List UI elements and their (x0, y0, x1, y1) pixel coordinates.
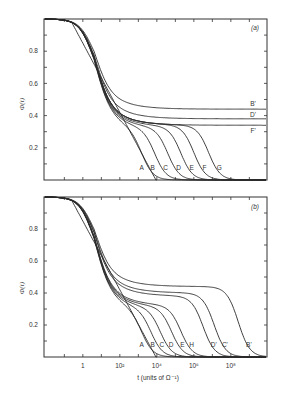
panel-a-curves (45, 19, 266, 180)
panel-b-ticks: 0.20.40.60.8110²10⁴10⁶10⁸ (29, 197, 267, 369)
curve-label: D (176, 164, 181, 171)
curve-label: A (139, 341, 144, 348)
curve-label: B (151, 164, 155, 171)
x-tick-label: 10⁸ (226, 362, 236, 369)
curve-label: C' (222, 341, 228, 348)
curve-label: B' (246, 341, 252, 348)
curve-label: B (151, 341, 155, 348)
curve-H (45, 197, 266, 357)
panel-a-tag: (a) (251, 24, 259, 32)
curve-label: A (139, 164, 144, 171)
curve-E (45, 197, 266, 357)
panel-b-tag: (b) (251, 203, 259, 211)
x-tick-label: 10² (115, 362, 125, 369)
figure: 0.20.40.60.8 ABCDEFGF'D'B' (a) Φ(t) 0.20… (0, 0, 282, 394)
y-tick-label: 0.2 (29, 144, 38, 151)
curve-C (45, 197, 266, 357)
curve-label: E (180, 341, 185, 348)
panel-a: 0.20.40.60.8 ABCDEFGF'D'B' (a) Φ(t) (18, 19, 267, 180)
curve-label: G (217, 164, 222, 171)
curve-B (45, 197, 266, 357)
curve-C (45, 19, 266, 180)
y-tick-label: 0.4 (29, 112, 38, 119)
y-tick-label: 0.8 (29, 225, 38, 232)
curve-label: H (189, 341, 194, 348)
curve-D (45, 197, 266, 357)
curve-label: E (189, 164, 194, 171)
curve-label: C (160, 341, 165, 348)
curve-label: D (169, 341, 174, 348)
panel-a-ticks: 0.20.40.60.8 (29, 19, 267, 180)
y-tick-label: 0.8 (29, 47, 38, 54)
x-tick-label: 10⁶ (189, 362, 199, 369)
curve-label: C (163, 164, 168, 171)
curve-label: D' (211, 341, 217, 348)
y-tick-label: 0.6 (29, 80, 38, 87)
panel-b-frame (44, 197, 267, 357)
curve-label: B' (250, 100, 256, 107)
curve-Cp (45, 197, 266, 357)
curve-label: F (203, 164, 207, 171)
curve-Dp (45, 197, 266, 357)
curve-Bp (45, 197, 266, 356)
panel-b-y-label: Φ(t) (18, 281, 26, 294)
panel-b-curves (45, 197, 266, 357)
x-tick-label: 1 (81, 362, 85, 369)
y-tick-label: 0.6 (29, 257, 38, 264)
x-tick-label: 10⁴ (152, 362, 162, 369)
y-tick-label: 0.4 (29, 289, 38, 296)
panel-b: 0.20.40.60.8110²10⁴10⁶10⁸ ABCDEHD'C'B' (… (18, 197, 267, 382)
curve-label: D' (250, 111, 256, 118)
curve-A (45, 197, 157, 357)
panel-a-y-label: Φ(t) (18, 97, 26, 110)
curve-A (45, 19, 157, 180)
y-tick-label: 0.2 (29, 321, 38, 328)
x-axis-label: t (units of Ω⁻¹) (137, 374, 179, 382)
curve-Bp (45, 19, 266, 109)
curve-label: F' (250, 127, 255, 134)
